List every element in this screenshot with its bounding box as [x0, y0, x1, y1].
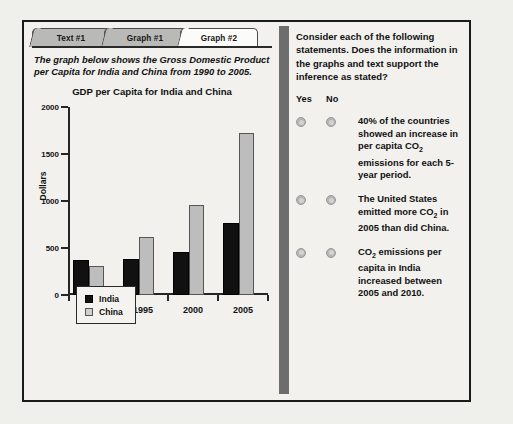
- x-axis-tick: [267, 295, 269, 301]
- statement-row: CO2 emissions per capita in India increa…: [296, 246, 463, 300]
- statements-list: 40% of the countries showed an increase …: [296, 115, 463, 300]
- y-axis-tick: [61, 106, 68, 108]
- radio-yes-statement-3[interactable]: [296, 248, 306, 258]
- yes-no-column-headers: Yes No: [296, 94, 463, 104]
- statement-text: The United States emitted more CO2 in 20…: [356, 193, 463, 235]
- radio-cell-no: [326, 115, 356, 182]
- text-run: CO: [358, 246, 372, 257]
- legend-swatch-india: [85, 295, 93, 303]
- y-axis-tick: [61, 153, 68, 155]
- bar-india-2000: [173, 252, 189, 295]
- tab-graph-1[interactable]: Graph #1: [104, 28, 186, 47]
- plot-area: 05001000150020001990199520002005: [68, 107, 268, 295]
- radio-yes-statement-1[interactable]: [296, 117, 306, 127]
- y-axis-tick: [61, 294, 68, 296]
- x-axis-tick-label: 2005: [233, 305, 253, 315]
- tab-graph-2[interactable]: Graph #2: [180, 28, 258, 47]
- no-column-header: No: [326, 94, 356, 104]
- legend-label-china: China: [99, 307, 123, 317]
- yes-column-header: Yes: [296, 94, 326, 104]
- y-axis-tick-label: 0: [55, 290, 59, 299]
- bar-india-2005: [223, 223, 239, 295]
- graph-caption: The graph below shows the Gross Domestic…: [32, 52, 272, 79]
- vertical-scrollbar[interactable]: [279, 26, 289, 394]
- y-axis-line: [68, 107, 70, 295]
- subscript: 2: [419, 146, 423, 153]
- radio-no-statement-2[interactable]: [326, 195, 336, 205]
- x-axis-tick: [217, 295, 219, 301]
- radio-yes-statement-2[interactable]: [296, 195, 306, 205]
- statement-text: CO2 emissions per capita in India increa…: [356, 246, 463, 300]
- tab-label: Text #1: [57, 34, 85, 43]
- bar-chart: Dollars 05001000150020001990199520002005: [32, 103, 272, 308]
- bar-china-2005: [239, 133, 255, 295]
- tab-label: Graph #2: [201, 34, 237, 43]
- y-axis-tick-label: 2000: [41, 102, 59, 111]
- text-run: emissions for each 5-year period.: [358, 157, 454, 181]
- tab-label: Graph #1: [127, 34, 163, 43]
- radio-cell-no: [326, 193, 356, 235]
- bar-china-2000: [189, 205, 205, 295]
- bar-china-1995: [139, 237, 155, 294]
- radio-cell-yes: [296, 115, 326, 182]
- radio-no-statement-3[interactable]: [326, 248, 336, 258]
- legend-item-china: China: [85, 305, 123, 318]
- y-axis-tick-label: 1500: [41, 149, 59, 158]
- text-run: 40% of the countries showed an increase …: [358, 115, 458, 151]
- question-prompt: Consider each of the following statement…: [296, 30, 463, 83]
- x-axis-tick-label: 1995: [133, 305, 153, 315]
- legend-swatch-china: [85, 308, 93, 316]
- y-axis-tick-label: 500: [46, 243, 59, 252]
- y-axis-tick: [61, 200, 68, 202]
- radio-no-statement-1[interactable]: [326, 117, 336, 127]
- y-axis-tick-label: 1000: [41, 196, 59, 205]
- text-run: The United States emitted more CO: [358, 193, 437, 217]
- statement-row: The United States emitted more CO2 in 20…: [296, 193, 463, 235]
- exercise-frame: Text #1 Graph #1 Graph #2 The graph belo…: [22, 20, 471, 402]
- radio-cell-yes: [296, 246, 326, 300]
- radio-cell-no: [326, 246, 356, 300]
- tab-underline: [32, 46, 272, 48]
- legend-item-india: India: [85, 292, 123, 305]
- x-axis-tick: [68, 295, 70, 301]
- chart-legend: India China: [76, 286, 136, 324]
- tab-text-1[interactable]: Text #1: [32, 28, 110, 47]
- y-axis-tick: [61, 247, 68, 249]
- x-axis-tick-label: 2000: [183, 305, 203, 315]
- radio-cell-yes: [296, 193, 326, 235]
- statement-row: 40% of the countries showed an increase …: [296, 115, 463, 182]
- statement-text: 40% of the countries showed an increase …: [356, 115, 463, 182]
- x-axis-tick: [167, 295, 169, 301]
- graph-panel: The graph below shows the Gross Domestic…: [32, 52, 272, 394]
- chart-title: GDP per Capita for India and China: [32, 86, 272, 97]
- legend-label-india: India: [99, 294, 119, 304]
- question-panel: Consider each of the following statement…: [296, 30, 463, 394]
